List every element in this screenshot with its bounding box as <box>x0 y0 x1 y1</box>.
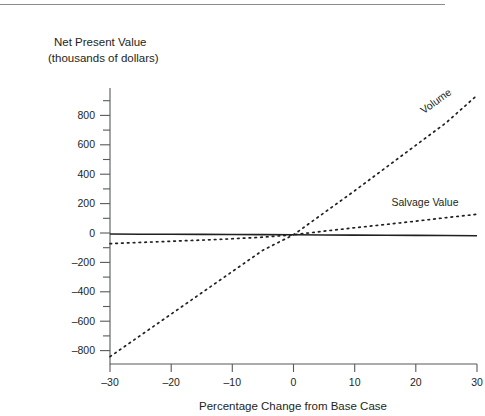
series-line-volume <box>110 95 477 356</box>
y-axis-tick-labels: 800 600 400 200 0 –200 –400 –600 –800 <box>72 109 96 356</box>
y-tick-label-200: 200 <box>77 197 95 209</box>
y-tick-label-800: 800 <box>77 109 95 121</box>
chart-canvas: Net Present Value (thousands of dollars) <box>40 16 485 416</box>
y-tick-label-600: 600 <box>77 138 95 150</box>
y-tick-label-0: 0 <box>89 227 95 239</box>
x-tick-label-neg20: –20 <box>162 376 180 388</box>
y-axis-ticks <box>100 101 110 351</box>
series-label-volume: Volume <box>418 86 454 116</box>
x-tick-label-10: 10 <box>349 376 361 388</box>
y-tick-label-neg400: –400 <box>72 285 96 297</box>
y-axis-title-line1: Net Present Value <box>54 36 146 48</box>
series-group <box>110 95 477 356</box>
x-axis-tick-labels: –30 –20 –10 0 10 20 30 <box>101 376 483 388</box>
y-axis-title-line2: (thousands of dollars) <box>48 52 159 64</box>
y-tick-label-neg600: –600 <box>72 315 96 327</box>
series-line-salvage-value <box>110 214 477 243</box>
x-tick-label-neg30: –30 <box>101 376 119 388</box>
x-axis-ticks <box>110 364 477 372</box>
axis-spines <box>110 88 477 364</box>
x-axis-title: Percentage Change from Base Case <box>199 400 387 412</box>
series-label-salvage-value: Salvage Value <box>392 196 459 208</box>
x-tick-label-0: 0 <box>291 376 297 388</box>
top-divider-rule <box>0 4 445 5</box>
series-line-fixed-costs <box>110 234 477 236</box>
x-tick-label-20: 20 <box>410 376 422 388</box>
x-tick-label-30: 30 <box>471 376 483 388</box>
y-tick-label-neg800: –800 <box>72 344 96 356</box>
x-tick-label-neg10: –10 <box>224 376 242 388</box>
y-tick-label-400: 400 <box>77 168 95 180</box>
y-tick-label-neg200: –200 <box>72 256 96 268</box>
sensitivity-analysis-chart: Net Present Value (thousands of dollars) <box>40 16 485 416</box>
